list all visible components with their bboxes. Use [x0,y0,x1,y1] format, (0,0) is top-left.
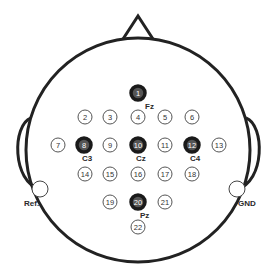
electrode-number: 4 [136,113,140,122]
electrode-number: 16 [134,170,142,179]
electrode-number: 8 [82,141,86,150]
electrode-label-c4: C4 [190,154,201,163]
electrode-label-pz: Pz [140,211,149,220]
electrode-number: 3 [108,113,112,122]
electrode-label-fz: Fz [145,102,154,111]
ground-electrode [229,181,245,197]
reference-label: Ref. [24,199,39,208]
electrode-number: 21 [161,198,169,207]
electrode-number: 12 [188,141,196,150]
eeg-montage-diagram: Ref. GND 1Fz2345678C3910Cz1112C413141516… [0,0,277,267]
electrode-number: 19 [106,198,114,207]
electrode-number: 11 [161,141,169,150]
electrode-number: 18 [188,170,196,179]
electrode-number: 22 [134,223,142,232]
electrode-number: 20 [134,198,142,207]
electrode-number: 10 [134,141,142,150]
electrode-number: 15 [106,170,114,179]
electrode-number: 14 [81,170,89,179]
electrode-number: 7 [56,141,60,150]
electrode-label-cz: Cz [136,154,146,163]
electrode-number: 17 [161,170,169,179]
nose-triangle [123,16,153,39]
reference-electrode [32,181,48,197]
electrode-number: 13 [215,141,223,150]
electrode-number: 9 [108,141,112,150]
electrode-number: 2 [83,113,87,122]
electrode-label-c3: C3 [82,154,93,163]
ground-label: GND [238,199,256,208]
electrode-number: 6 [190,113,194,122]
electrode-number: 1 [136,89,140,98]
electrode-number: 5 [163,113,167,122]
